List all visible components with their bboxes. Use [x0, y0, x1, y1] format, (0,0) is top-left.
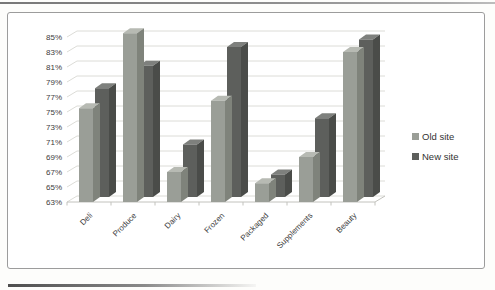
y-axis-tick-label: 71% — [46, 138, 62, 147]
bar-old-site-packaged — [255, 183, 269, 202]
bar-side-old-site-dairy — [181, 167, 188, 202]
x-axis-category-label: Deli — [78, 211, 94, 227]
bar-old-site-beauty — [343, 52, 357, 202]
bar-side-new-site-deli — [109, 83, 116, 197]
bar-old-site-dairy — [167, 172, 181, 202]
legend-swatch-new-site — [412, 153, 419, 160]
bar-side-old-site-beauty — [357, 47, 364, 202]
x-axis-category-label: Beauty — [334, 211, 358, 235]
bar-side-new-site-beauty — [373, 35, 380, 198]
x-axis-category-label: Packaged — [239, 211, 271, 243]
gridline-depth — [67, 61, 77, 67]
bar-side-new-site-supplements — [329, 113, 336, 197]
gridline-depth — [67, 166, 77, 172]
bar-side-new-site-frozen — [241, 42, 248, 197]
gridline-depth — [67, 46, 77, 52]
x-axis-category-label: Dairy — [163, 211, 183, 231]
y-axis-tick-label: 73% — [46, 123, 62, 132]
y-axis-tick-label: 75% — [46, 108, 62, 117]
gridline-depth — [67, 181, 77, 187]
y-axis-tick-label: 67% — [46, 168, 62, 177]
top-horizontal-rule — [0, 2, 495, 4]
gridline-depth — [67, 196, 77, 202]
legend: Old site New site — [412, 131, 458, 162]
y-axis-tick-label: 77% — [46, 93, 62, 102]
bar-old-site-frozen — [211, 101, 225, 202]
chart-frame: 63%65%67%69%71%73%75%77%79%81%83%85%Deli… — [7, 12, 485, 269]
floor-right-edge — [375, 196, 385, 202]
y-axis-tick-label: 65% — [46, 183, 62, 192]
legend-label-old-site: Old site — [422, 131, 454, 142]
bar-old-site-produce — [123, 33, 137, 202]
bottom-horizontal-rule — [8, 284, 256, 287]
bar-old-site-supplements — [299, 157, 313, 202]
gridline-depth — [67, 121, 77, 127]
bar-side-old-site-produce — [137, 28, 144, 202]
bar-side-old-site-frozen — [225, 96, 232, 202]
gridline-depth — [67, 76, 77, 82]
bar-side-old-site-supplements — [313, 152, 320, 202]
gridline-depth — [67, 136, 77, 142]
x-axis-category-label: Produce — [111, 211, 139, 239]
y-axis-tick-label: 81% — [46, 63, 62, 72]
x-axis-category-label: Frozen — [202, 211, 226, 235]
gridline-depth — [67, 91, 77, 97]
gridline-depth — [67, 151, 77, 157]
bar-side-old-site-deli — [93, 103, 100, 202]
y-axis-tick-label: 79% — [46, 78, 62, 87]
bar-old-site-deli — [79, 108, 93, 202]
legend-label-new-site: New site — [422, 151, 458, 162]
bar-side-new-site-dairy — [197, 140, 204, 198]
y-axis-tick-label: 83% — [46, 48, 62, 57]
y-axis-tick-label: 63% — [46, 198, 62, 207]
y-axis-tick-label: 85% — [46, 33, 62, 42]
legend-swatch-old-site — [412, 133, 419, 140]
gridline-depth — [67, 106, 77, 112]
bar-side-new-site-produce — [153, 61, 160, 197]
x-axis-category-label: Supplements — [275, 211, 314, 250]
gridline-depth — [67, 31, 77, 37]
y-axis-tick-label: 69% — [46, 153, 62, 162]
bar-chart-3d: 63%65%67%69%71%73%75%77%79%81%83%85%Deli… — [8, 13, 483, 267]
